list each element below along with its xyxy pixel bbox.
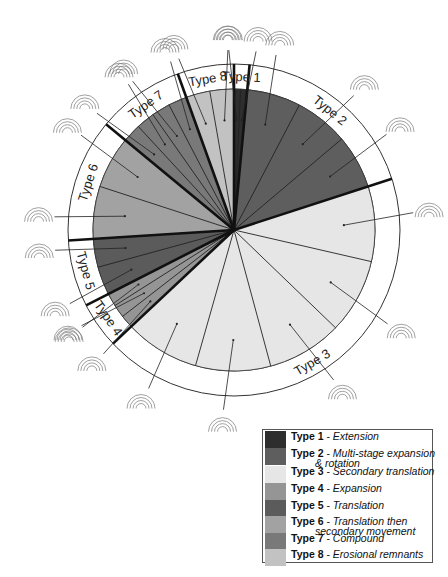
sketch-arc: [209, 418, 237, 432]
leader-dot: [137, 176, 139, 178]
legend-item: Type 1 - Extension: [263, 431, 379, 448]
legend-item: Type 8 - Erosional remnants: [263, 549, 423, 566]
sketch-arc: [136, 404, 146, 409]
leader-dot: [164, 143, 166, 145]
legend-label: Type 5 - Translation: [291, 500, 384, 510]
sketch-arc: [392, 124, 408, 132]
sketch-arc: [25, 208, 53, 222]
leader-dot: [137, 283, 139, 285]
legend-item: Type 3 - Secondary translation: [263, 466, 434, 483]
legend-label: Type 8 - Erosional remnants: [291, 549, 423, 559]
sketch-arc: [244, 27, 272, 41]
sketch-arc: [424, 212, 434, 217]
landform-sketch-icon: [328, 385, 356, 399]
sketch-arc: [250, 33, 266, 41]
leader-dot: [264, 123, 266, 125]
sketch-arc: [105, 63, 133, 77]
leader-dot: [289, 324, 291, 326]
leader-dot: [153, 153, 155, 155]
legend-item: Type 6 - Translation thensecondary movem…: [263, 516, 415, 533]
legend-swatch: [265, 483, 286, 500]
landform-sketch-icon: [386, 118, 414, 132]
sketch-arc: [50, 311, 60, 316]
legend-item: Type 2 - Multi-stage expansion& rotation: [263, 448, 435, 465]
sketch-arc: [80, 104, 90, 109]
landform-sketch-icon: [415, 203, 443, 217]
sketch-arc: [328, 385, 356, 399]
sketch-arc: [386, 118, 414, 132]
legend-swatch: [265, 466, 286, 483]
leader-dot: [232, 339, 234, 341]
sketch-arc: [272, 37, 288, 45]
leader-dot: [329, 175, 331, 177]
legend-label: Type 4 - Expansion: [291, 483, 382, 493]
sketch-arc: [356, 82, 372, 90]
sketch-arc: [395, 127, 405, 132]
leader-dot: [130, 269, 132, 271]
legend-label: Type 7 - Compound: [291, 533, 384, 543]
sketch-arc: [84, 363, 100, 371]
legend-swatch: [265, 448, 286, 465]
sketch-arc: [350, 76, 378, 90]
leader-dot: [176, 323, 178, 325]
landform-sketch-icon: [25, 208, 53, 222]
leader-dot: [343, 224, 345, 226]
sketch-arc: [31, 250, 47, 258]
leader-dot: [330, 281, 332, 283]
legend-swatch: [265, 431, 286, 448]
sketch-arc: [127, 395, 155, 409]
sketch-arc: [218, 427, 228, 432]
sketch-arc: [31, 214, 47, 222]
landform-sketch-icon: [209, 418, 237, 432]
landform-sketch-icon: [127, 395, 155, 409]
sketch-arc: [71, 95, 99, 109]
leader-dot: [302, 143, 304, 145]
sketch-arc: [334, 391, 350, 399]
landform-sketch-icon: [41, 302, 69, 316]
landform-sketch-icon: [151, 39, 179, 53]
sketch-arc: [275, 40, 285, 45]
sketch-arc: [359, 85, 369, 90]
leader-dot: [189, 128, 191, 130]
sketch-arc: [396, 333, 406, 338]
sketch-arc: [421, 209, 437, 217]
sketch-arc: [160, 48, 170, 53]
leader-dot: [223, 119, 225, 121]
landform-sketch-icon: [105, 63, 133, 77]
sketch-arc: [53, 119, 81, 133]
leader-dot: [149, 300, 151, 302]
sketch-arc: [415, 203, 443, 217]
sketch-arc: [62, 128, 72, 133]
legend-swatch: [265, 549, 286, 566]
leader-dot: [205, 123, 207, 125]
leader-dot: [235, 119, 237, 121]
sketch-arc: [133, 401, 149, 409]
sketch-arc: [41, 302, 69, 316]
legend: Type 1 - ExtensionType 2 - Multi-stage e…: [262, 429, 433, 563]
sketch-arc: [151, 39, 179, 53]
landform-sketch-icon: [78, 357, 106, 371]
legend-swatch: [265, 500, 286, 517]
sketch-arc: [253, 36, 263, 41]
sketch-arc: [387, 324, 415, 338]
sketch-arc: [77, 101, 93, 109]
legend-swatch: [265, 516, 286, 533]
legend-label: Type 3 - Secondary translation: [291, 466, 434, 476]
sketch-arc: [337, 394, 347, 399]
sketch-arc: [215, 424, 231, 432]
leader-dot: [143, 292, 145, 294]
leader-dot: [241, 119, 243, 121]
leader-dot: [124, 215, 126, 217]
sketch-arc: [393, 330, 409, 338]
sketch-arc: [59, 125, 75, 133]
landform-sketch-icon: [387, 324, 415, 338]
landform-sketch-icon: [244, 27, 272, 41]
leader-dot: [124, 247, 126, 249]
sketch-arc: [25, 244, 53, 258]
legend-swatch: [265, 533, 286, 550]
landform-sketch-icon: [350, 76, 378, 90]
landform-sketch-icon: [25, 244, 53, 258]
legend-item: Type 4 - Expansion: [263, 483, 382, 500]
legend-label: Type 1 - Extension: [291, 431, 379, 441]
leader-dot: [176, 135, 178, 137]
